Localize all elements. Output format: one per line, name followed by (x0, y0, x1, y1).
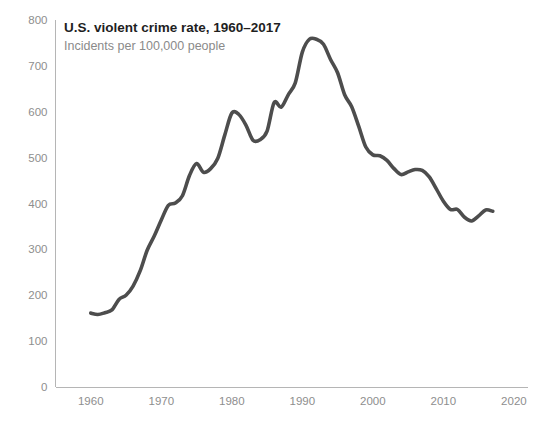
x-tick-1990: 1990 (290, 395, 316, 407)
y-tick-800: 800 (28, 14, 47, 26)
x-tick-1970: 1970 (148, 395, 174, 407)
chart-subtitle: Incidents per 100,000 people (64, 39, 225, 53)
chart-titles: U.S. violent crime rate, 1960–2017 Incid… (64, 20, 281, 53)
y-tick-100: 100 (28, 335, 47, 347)
y-tick-300: 300 (28, 243, 47, 255)
x-tick-1980: 1980 (219, 395, 245, 407)
y-tick-700: 700 (28, 60, 47, 72)
x-tick-2020: 2020 (501, 395, 527, 407)
y-tick-0: 0 (41, 381, 47, 393)
y-tick-200: 200 (28, 289, 47, 301)
y-tick-600: 600 (28, 106, 47, 118)
y-axis-tick-labels: 0100200300400500600700800 (28, 14, 47, 393)
x-axis-tick-labels: 1960197019801990200020102020 (78, 395, 527, 407)
violent-crime-rate-line (91, 38, 493, 314)
y-tick-400: 400 (28, 198, 47, 210)
y-tick-500: 500 (28, 152, 47, 164)
x-tick-1960: 1960 (78, 395, 104, 407)
violent-crime-line-chart: U.S. violent crime rate, 1960–2017 Incid… (0, 0, 541, 430)
chart-container: U.S. violent crime rate, 1960–2017 Incid… (0, 0, 541, 430)
x-tick-2000: 2000 (360, 395, 386, 407)
chart-title: U.S. violent crime rate, 1960–2017 (64, 20, 281, 35)
x-tick-2010: 2010 (431, 395, 457, 407)
